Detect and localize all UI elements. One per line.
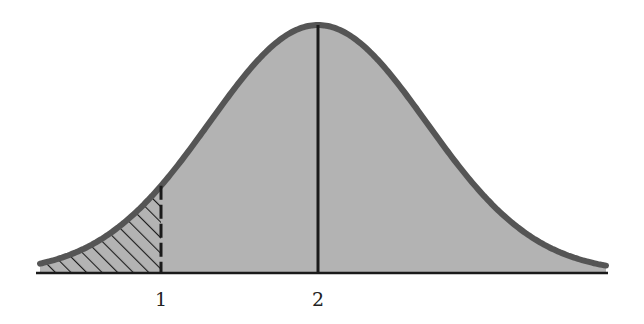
normal-curve-diagram: 1 2 bbox=[0, 0, 644, 324]
axis-label-2: 2 bbox=[312, 288, 324, 310]
axis-label-1: 1 bbox=[155, 288, 167, 310]
